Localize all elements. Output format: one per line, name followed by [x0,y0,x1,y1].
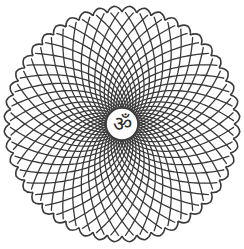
spiral-line [89,13,107,119]
spiral-line [51,120,106,211]
spiral-line [35,139,126,194]
om-symbol-icon: ॐ [113,112,132,136]
spiral-line [11,91,117,109]
spiral-line [89,128,107,234]
om-mandala: ॐ [0,0,244,249]
spiral-line [137,128,155,234]
spiral-line [11,139,117,157]
spiral-line [51,37,106,128]
spiral-line [118,139,209,194]
spiral-line [27,65,124,108]
spiral-line [137,37,192,128]
spiral-line [35,53,126,108]
spiral-line [138,122,181,219]
spiral-line [120,140,217,183]
spiral-line [126,139,232,157]
spiral-line [126,91,232,109]
spiral-line [63,122,106,219]
spiral-line [137,13,155,119]
spiral-line [137,120,192,211]
spiral-line [118,53,209,108]
